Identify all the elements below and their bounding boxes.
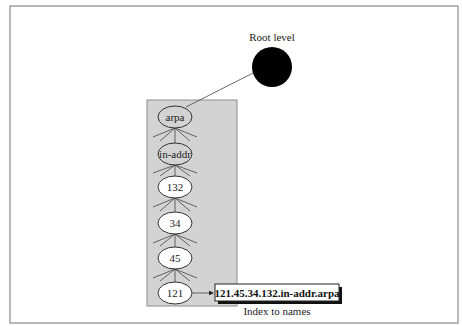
svg-text:121: 121: [167, 287, 184, 299]
node-45: 45: [158, 247, 192, 269]
root-level-label: Root level: [249, 31, 295, 43]
svg-text:in-addr: in-addr: [159, 148, 191, 160]
root-node: [252, 47, 292, 87]
result-label-box: 121.45.34.132.in-addr.arpa: [214, 284, 342, 304]
svg-text:34: 34: [170, 217, 182, 229]
svg-text:45: 45: [170, 252, 182, 264]
node-34: 34: [158, 212, 192, 234]
node-arpa: arpa: [158, 106, 192, 128]
node-132: 132: [158, 176, 192, 198]
node-in-addr: in-addr: [158, 143, 192, 165]
result-domain-name: 121.45.34.132.in-addr.arpa: [214, 287, 340, 299]
index-to-names-caption: Index to names: [243, 305, 310, 317]
svg-text:arpa: arpa: [166, 111, 185, 123]
reverse-dns-diagram: Root level arpa: [0, 0, 462, 326]
node-121: 121: [158, 282, 192, 304]
svg-text:132: 132: [167, 181, 184, 193]
